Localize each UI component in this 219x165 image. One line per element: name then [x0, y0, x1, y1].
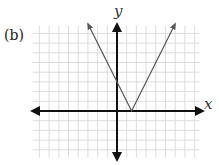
v-shaped-curve	[88, 24, 175, 111]
chart-plot	[0, 0, 219, 165]
